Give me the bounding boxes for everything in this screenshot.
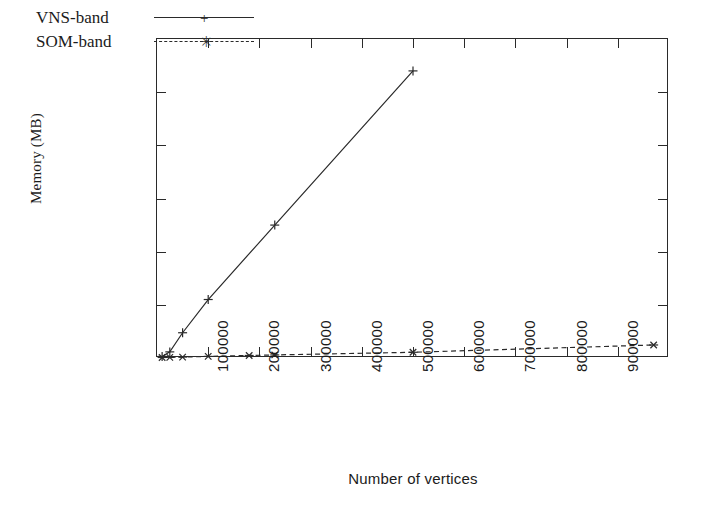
y-tick-mark-right (658, 199, 667, 200)
series-markers (158, 66, 418, 361)
y-tick-mark (157, 145, 166, 146)
x-axis-label: Number of vertices (156, 470, 670, 487)
x-tick-mark-top (259, 39, 260, 48)
x-tick-label: 800000 (573, 320, 590, 372)
x-tick-mark (413, 347, 414, 356)
x-tick-mark (362, 347, 363, 356)
x-tick-label: 900000 (624, 320, 641, 372)
asterisk-marker-icon: ✳ (200, 35, 213, 49)
x-tick-mark (515, 347, 516, 356)
y-tick-mark (157, 252, 166, 253)
x-tick-label: 500000 (419, 320, 436, 372)
chart-legend: VNS-band + SOM-band ✳ (36, 6, 254, 54)
legend-label-som-band: SOM-band (36, 30, 148, 54)
x-tick-label: 200000 (265, 320, 282, 372)
legend-label-vns-band: VNS-band (36, 6, 148, 30)
legend-entry-vns-band: VNS-band + (36, 6, 254, 30)
x-tick-mark (311, 347, 312, 356)
x-tick-label: 100000 (214, 320, 231, 372)
x-tick-mark (464, 347, 465, 356)
series-line (162, 71, 413, 357)
y-tick-mark-right (658, 145, 667, 146)
y-tick-mark (157, 199, 166, 200)
x-tick-mark-top (362, 39, 363, 48)
x-tick-mark-top (618, 39, 619, 48)
y-tick-mark-right (658, 305, 667, 306)
legend-sample-som-band: ✳ (154, 35, 254, 49)
x-tick-mark-top (311, 39, 312, 48)
x-tick-mark (567, 347, 568, 356)
x-tick-label: 700000 (521, 320, 538, 372)
y-tick-mark (157, 305, 166, 306)
x-tick-label: 300000 (317, 320, 334, 372)
plot-area (156, 38, 668, 357)
series-layer (157, 39, 669, 358)
y-axis-label: Memory (MB) (28, 79, 45, 239)
x-tick-label: 600000 (470, 320, 487, 372)
x-tick-mark (618, 347, 619, 356)
legend-sample-vns-band: + (154, 11, 254, 25)
legend-entry-som-band: SOM-band ✳ (36, 30, 254, 54)
y-tick-mark-right (658, 92, 667, 93)
x-tick-label: 400000 (368, 320, 385, 372)
y-tick-mark-right (658, 252, 667, 253)
x-tick-mark-top (515, 39, 516, 48)
series-vns-band (158, 66, 418, 361)
plus-marker-icon: + (200, 11, 208, 25)
x-tick-mark-top (413, 39, 414, 48)
x-tick-mark (208, 347, 209, 356)
chart-figure: Memory (MB) Number of vertices 020004000… (0, 0, 706, 507)
x-tick-mark-top (464, 39, 465, 48)
y-tick-mark (157, 92, 166, 93)
x-tick-mark (259, 347, 260, 356)
x-tick-mark-top (567, 39, 568, 48)
